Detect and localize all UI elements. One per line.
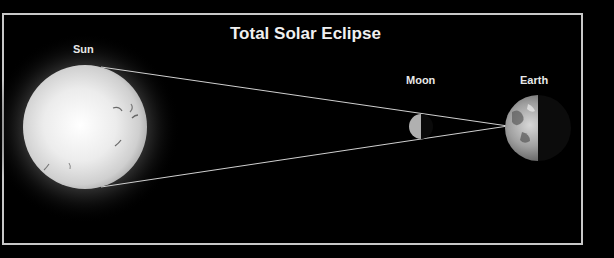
- earth-icon: [505, 95, 571, 161]
- sun-label: Sun: [73, 43, 94, 55]
- diagram-title: Total Solar Eclipse: [230, 24, 381, 44]
- moon-label: Moon: [406, 74, 435, 86]
- earth-label: Earth: [520, 74, 548, 86]
- moon-icon: [409, 114, 433, 139]
- sun-icon: [23, 65, 147, 189]
